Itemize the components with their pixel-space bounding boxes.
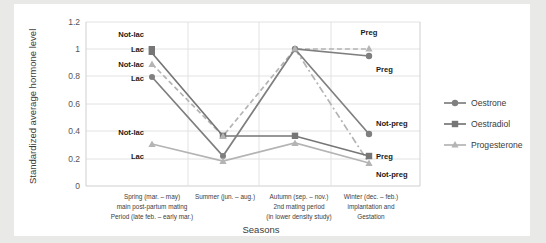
legend-label-progesterone: Progesterone	[471, 140, 523, 150]
xcat-autumn-line1: Autumn (sep. – nov.)	[270, 193, 329, 201]
legend-label-oestradiol: Oestradiol	[471, 119, 510, 129]
annotation-spring-oestrone-lac: Lac	[131, 74, 144, 83]
annotation-winter-oestrone-preg: Preg	[376, 65, 393, 74]
y-axis-title: Standardized average hormone level	[27, 29, 38, 184]
xcat-winter-line3: Gestation	[357, 213, 385, 220]
series-progesterone-lac-line	[152, 143, 369, 163]
xcat-winter-line1: Winter (dec. – feb.)	[344, 193, 398, 201]
annotation-spring-progesterone-notlac: Not-lac	[118, 60, 144, 69]
legend-label-oestrone: Oestrone	[471, 98, 507, 108]
legend-marker-circle-icon	[452, 100, 458, 106]
legend-item-progesterone[interactable]: Progesterone	[444, 140, 523, 150]
legend-item-oestradiol[interactable]: Oestradiol	[444, 119, 510, 129]
xcat-autumn-line3: (in lower density study)	[266, 213, 331, 221]
annotation-spring-oestradiol-notlac: Not-lac	[118, 30, 144, 39]
xcat-spring-line2: main post-partum mating	[117, 203, 188, 211]
series-progesterone-notlac-line	[152, 49, 369, 136]
series-oestrone-line	[152, 49, 369, 156]
series-oestrone-notpreg-line	[295, 49, 369, 134]
annotation-winter-oestradiol-preg: Preg	[376, 152, 393, 161]
y-tick-0.6: 0.6	[68, 99, 80, 109]
y-tick-1.2: 1.2	[68, 17, 80, 27]
series-oestrone-markers	[149, 46, 372, 159]
y-tick-labels: 1.2 1 0.8 0.6 0.4 0.2 0	[68, 17, 80, 191]
chart-legend: Oestrone Oestradiol Progesterone	[444, 98, 523, 150]
annotation-spring-prog-lower-notlac: Not-lac	[118, 128, 144, 137]
y-tick-0: 0	[75, 181, 80, 191]
x-category-labels: Spring (mar. – may) main post-partum mat…	[111, 193, 398, 221]
chart-figure: Standardized average hormone level 1.2 1…	[14, 4, 530, 236]
annotation-winter-progesterone-preg: Preg	[361, 28, 378, 37]
y-tick-1: 1	[75, 44, 80, 54]
xcat-spring-line1: Spring (mar. – may)	[124, 193, 180, 201]
annotation-winter-progesterone-notpreg: Not-preg	[376, 170, 408, 179]
xcat-autumn-line2: 2nd mating period	[273, 203, 325, 211]
legend-item-oestrone[interactable]: Oestrone	[444, 98, 507, 108]
series-oestradiol-markers	[149, 46, 373, 159]
y-tick-0.8: 0.8	[68, 71, 80, 81]
hormone-season-line-chart: Standardized average hormone level 1.2 1…	[14, 4, 530, 236]
xcat-winter-line2: implantation and	[348, 203, 395, 211]
xcat-summer-line1: Summer (jun. – aug.)	[195, 193, 255, 201]
x-axis-title: Seasons	[243, 224, 280, 235]
annotation-winter-oestrone-notpreg: Not-preg	[376, 119, 408, 128]
y-tick-0.4: 0.4	[68, 126, 80, 136]
legend-marker-square-icon	[452, 121, 458, 127]
annotation-spring-oestradiol-lac: Lac	[131, 45, 144, 54]
xcat-spring-line3: Period (late feb. – early mar.)	[111, 213, 193, 221]
annotation-spring-prog-lower-lac: Lac	[131, 152, 144, 161]
y-tick-0.2: 0.2	[68, 154, 80, 164]
